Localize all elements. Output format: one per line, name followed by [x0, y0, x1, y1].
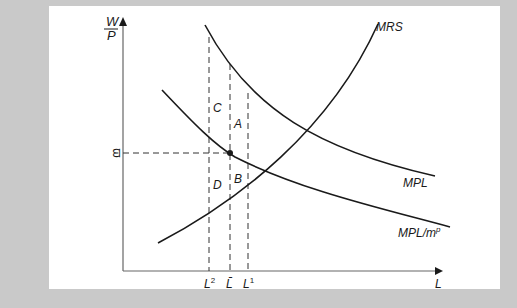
y-axis-arrow-icon [119, 17, 127, 26]
lbar-label: L̄ [226, 277, 233, 291]
region-b-label: B [234, 172, 242, 186]
mpl-mp-label: MPL/mp [398, 225, 441, 240]
labour-market-diagram: W P ϖ C A D B MRS MPL MPL/mp L2 L̄ L1 L [0, 0, 517, 308]
region-a-label: A [233, 117, 242, 131]
y-label-denominator: P [107, 28, 116, 43]
region-d-label: D [213, 178, 222, 192]
mpl-label: MPL [403, 176, 428, 190]
mpl-curve [205, 25, 435, 176]
mrs-label: MRS [376, 20, 403, 34]
mpl-mp-curve [162, 90, 450, 227]
y-label-numerator: W [106, 14, 120, 29]
x-axis-arrow-icon [435, 267, 443, 275]
omega-label: ϖ [110, 148, 124, 157]
region-c-label: C [213, 101, 222, 115]
equilibrium-point [227, 150, 233, 156]
l2-label: L2 [204, 276, 216, 291]
l1-label: L1 [243, 276, 255, 291]
mrs-curve [158, 24, 378, 243]
x-axis-label: L [435, 277, 442, 291]
